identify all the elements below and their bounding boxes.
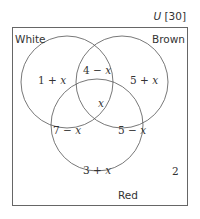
region-brown-only: 5 + x xyxy=(130,74,158,86)
region-white-only: 1 + x xyxy=(38,74,66,86)
region-white-red: 7 − x xyxy=(53,124,81,136)
venn-diagram: U [30] White Brown Red 1 + x 4 − x 5 + x… xyxy=(0,0,200,219)
region-brown-red: 5 − x xyxy=(118,124,146,136)
universal-set-box xyxy=(13,28,188,206)
region-outside: 2 xyxy=(172,165,179,177)
region-white-brown: 4 − x xyxy=(83,64,111,76)
white-label: White xyxy=(15,33,46,45)
universal-set-label: U [30] xyxy=(153,10,186,22)
brown-label: Brown xyxy=(152,33,185,45)
region-red-only: 3 + x xyxy=(83,164,111,176)
region-all-three: x xyxy=(98,97,104,109)
red-label: Red xyxy=(118,189,138,201)
white-circle xyxy=(21,36,113,128)
